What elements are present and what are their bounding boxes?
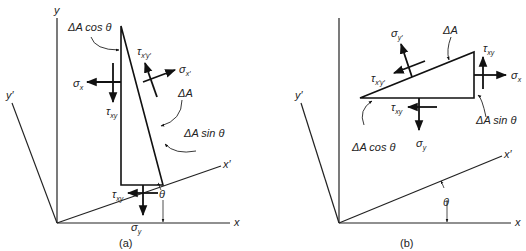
sigma-y-prime-label: σy′ — [391, 27, 403, 42]
leader-dA-sin — [165, 144, 196, 152]
x-prime-axis-label: x′ — [503, 148, 513, 160]
sigma-y-label: σy — [416, 137, 427, 152]
label-dA-cos: ΔA cos θ — [351, 141, 396, 153]
x-axis-label: x — [233, 216, 240, 228]
label-dA-cos: ΔA cos θ — [67, 21, 112, 33]
stress-element-diagram: y x x′ y′ θ ΔA cos θ ΔA ΔA sin θ σx τxy … — [0, 0, 526, 251]
theta-label: θ — [159, 188, 165, 200]
leader-dA-cos — [362, 101, 372, 125]
tau-x-prime-y-prime-label: τx′y′ — [137, 45, 151, 60]
panel-b: x x′ y′ θ ΔA ΔA sin θ ΔA cos θ σy′ τx′y′… — [294, 18, 522, 249]
tau-xy-bottom-label: τxy — [391, 101, 403, 116]
x-prime-axis — [57, 166, 221, 223]
sigma-x-label: σx — [73, 77, 84, 91]
tau-xy-right-label: τxy — [483, 42, 495, 57]
panel-a: y x x′ y′ θ ΔA cos θ ΔA ΔA sin θ σx τxy … — [5, 4, 240, 249]
wedge-element — [121, 26, 163, 185]
y-prime-axis-label: y′ — [294, 89, 304, 101]
tau-xy-left-label: τxy — [106, 105, 118, 120]
leader-dA-cos — [91, 37, 119, 50]
sigma-x-label: σx — [511, 69, 522, 83]
y-prime-axis — [12, 103, 57, 223]
y-prime-axis-label: y′ — [5, 89, 15, 101]
y-axis-label: y — [53, 4, 61, 16]
y-prime-axis — [301, 103, 339, 223]
theta-label: θ — [443, 196, 449, 208]
x-prime-axis-label: x′ — [222, 158, 232, 170]
wedge-element — [360, 52, 474, 98]
label-dA: ΔA — [177, 87, 193, 99]
leader-dA — [448, 37, 451, 60]
x-axis-label: x — [514, 216, 521, 228]
tau-x-prime-y-prime-label: τx′y′ — [371, 72, 385, 87]
caption-a: (a) — [119, 237, 132, 249]
label-dA: ΔA — [442, 24, 458, 36]
sigma-x-prime-label: σx′ — [179, 63, 191, 77]
leader-dA — [161, 100, 182, 126]
x-prime-axis — [339, 156, 502, 223]
sigma-y-prime-arrow — [401, 44, 412, 77]
tau-xy-bottom-label: τxy — [112, 188, 124, 203]
label-dA-sin: ΔA sin θ — [183, 127, 224, 139]
theta-arrow-upper — [441, 181, 444, 188]
label-dA-sin: ΔA sin θ — [475, 114, 516, 126]
caption-b: (b) — [400, 237, 413, 249]
